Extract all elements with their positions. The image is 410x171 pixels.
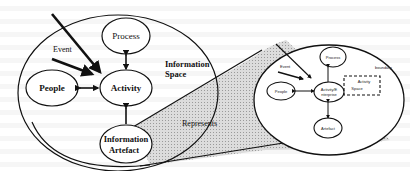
information-space-label-line1: Information <box>165 59 210 69</box>
right-artefact-label: Artefact <box>321 126 336 131</box>
boundary-label: boundary <box>375 65 392 70</box>
people-label: People <box>39 83 65 93</box>
information-space-diagram: Process People Activity Information Arte… <box>0 0 410 171</box>
activity-space-label-line2: Space <box>351 86 363 91</box>
information-artefact-node[interactable] <box>100 125 152 163</box>
process-label: Process <box>112 31 140 41</box>
artefact-label-line2: Artefact <box>109 145 139 155</box>
right-process-label: Process <box>326 55 340 60</box>
right-people-label: People <box>275 89 288 94</box>
right-event-label: Event <box>280 64 291 69</box>
right-activity-label-line2: nterprise <box>321 92 337 97</box>
artefact-label-line1: Information <box>104 134 149 144</box>
event-label: Event <box>53 45 72 54</box>
represents-label: Represents <box>182 119 217 128</box>
information-space-label-line2: Space <box>165 69 186 79</box>
activity-label: Activity <box>111 83 142 93</box>
activity-space-label-line1: Activity <box>358 79 371 84</box>
